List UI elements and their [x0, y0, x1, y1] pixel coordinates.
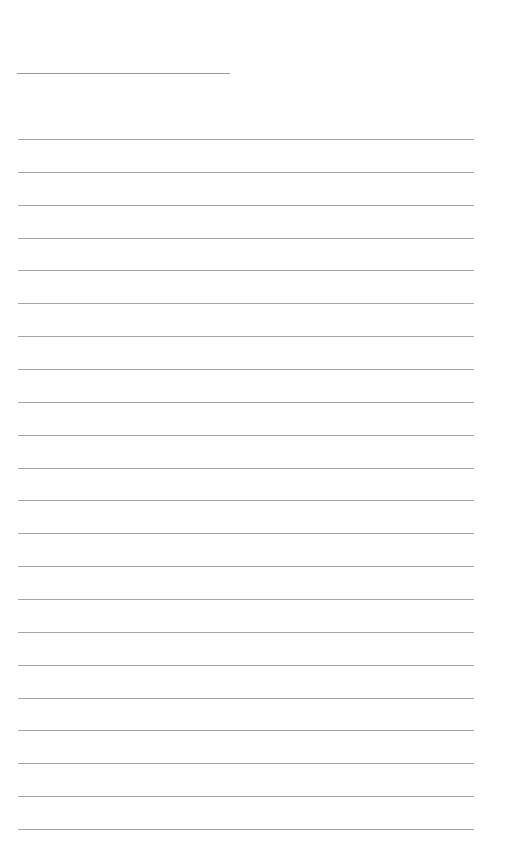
ruled-line [18, 303, 474, 304]
ruled-line [18, 270, 474, 271]
ruled-line [18, 369, 474, 370]
ruled-line [18, 763, 474, 764]
ruled-line [18, 336, 474, 337]
ruled-line [18, 829, 474, 830]
ruled-line [18, 665, 474, 666]
ruled-line [18, 533, 474, 534]
ruled-line [18, 566, 474, 567]
ruled-line [18, 435, 474, 436]
ruled-line [18, 402, 474, 403]
ruled-line [18, 500, 474, 501]
ruled-line [18, 796, 474, 797]
ruled-line [18, 698, 474, 699]
ruled-line [18, 468, 474, 469]
ruled-line [18, 172, 474, 173]
ruled-line [18, 632, 474, 633]
ruled-line [18, 238, 474, 239]
ruled-line [18, 205, 474, 206]
ruled-line [18, 139, 474, 140]
title-line [17, 73, 230, 74]
ruled-line [18, 599, 474, 600]
ruled-line [18, 730, 474, 731]
